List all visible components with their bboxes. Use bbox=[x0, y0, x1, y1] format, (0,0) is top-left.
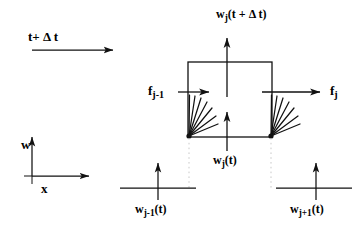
diagram-canvas: t+ Δ t wj(t + Δ t) fj-1 fj wj(t) wj-1(t)… bbox=[0, 0, 364, 240]
label-w-current-cell: wj(t) bbox=[213, 154, 237, 170]
label-time-step: t+ Δ t bbox=[28, 30, 58, 43]
label-w-right-neighbour-subscript: j+1 bbox=[299, 208, 312, 218]
label-flux-left: fj-1 bbox=[148, 84, 164, 100]
label-time-step-text: t+ Δ t bbox=[28, 29, 58, 44]
characteristic-fan-left bbox=[186, 95, 218, 139]
node-stencil-left bbox=[120, 163, 196, 200]
label-w-right-neighbour-base: w bbox=[290, 202, 299, 216]
label-axis-vertical: w bbox=[21, 138, 30, 151]
label-w-current-cell-base: w bbox=[213, 153, 222, 167]
label-flux-right: fj bbox=[330, 84, 338, 100]
label-flux-left-subscript: j-1 bbox=[152, 89, 164, 100]
label-axis-horizontal: x bbox=[41, 182, 48, 195]
label-w-left-neighbour-arg: (t) bbox=[155, 202, 167, 216]
label-w-left-neighbour-base: w bbox=[135, 202, 144, 216]
label-w-next-step-base: w bbox=[216, 7, 225, 21]
node-stencil-right bbox=[276, 163, 352, 200]
label-flux-right-subscript: j bbox=[334, 89, 337, 100]
coordinate-axes bbox=[24, 137, 89, 184]
label-w-next-step-arg: (t + Δ t) bbox=[228, 7, 267, 21]
label-w-right-neighbour: wj+1(t) bbox=[290, 203, 324, 219]
label-w-current-cell-arg: (t) bbox=[225, 153, 237, 167]
characteristic-fan-right bbox=[268, 95, 300, 139]
label-w-next-step: wj(t + Δ t) bbox=[216, 8, 266, 24]
label-w-left-neighbour-subscript: j-1 bbox=[144, 208, 155, 218]
label-w-right-neighbour-arg: (t) bbox=[312, 202, 324, 216]
label-w-left-neighbour: wj-1(t) bbox=[135, 203, 167, 219]
